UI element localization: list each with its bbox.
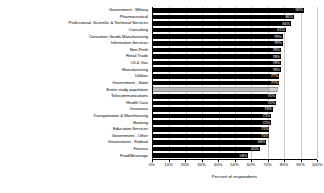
bar: 69% xyxy=(153,140,266,145)
x-axis: 0%10%20%30%40%50%60%70%80%90%100% xyxy=(152,160,317,170)
bar: 65% xyxy=(153,147,260,152)
bar-value-label: 81% xyxy=(277,28,285,32)
bar-row: 84% xyxy=(153,20,317,27)
bar-row: 78% xyxy=(153,66,317,73)
bar-rows: 92%86%84%81%79%79%78%78%78%78%77%77%76%7… xyxy=(153,7,317,159)
bar: 78% xyxy=(153,48,281,53)
plot-area: 92%86%84%81%79%79%78%78%78%78%77%77%76%7… xyxy=(152,7,317,160)
bar-value-label: 75% xyxy=(268,94,276,98)
x-axis-tick-label: 0% xyxy=(149,163,155,167)
bar-chart: Government - MilitaryPharmaceuticalProfe… xyxy=(0,0,324,193)
category-label: Government - Federal xyxy=(0,139,150,146)
bar: 77% xyxy=(153,74,279,79)
bar-value-label: 78% xyxy=(272,55,280,59)
bar-row: 72% xyxy=(153,113,317,120)
bar-value-label: 84% xyxy=(282,22,290,26)
bar-row: 81% xyxy=(153,27,317,34)
bar: 78% xyxy=(153,67,281,72)
category-label: Information Services xyxy=(0,40,150,47)
x-axis-tick-label: 100% xyxy=(312,163,323,167)
category-axis-labels: Government - MilitaryPharmaceuticalProfe… xyxy=(0,7,150,159)
bar: 81% xyxy=(153,28,286,33)
bar: 72% xyxy=(153,114,271,119)
bar: 86% xyxy=(153,15,294,20)
bar-row: 78% xyxy=(153,53,317,60)
bar-row: 79% xyxy=(153,33,317,40)
bar: 79% xyxy=(153,41,283,46)
bar: 71% xyxy=(153,127,269,132)
bar-value-label: 78% xyxy=(272,48,280,52)
bar-value-label: 75% xyxy=(268,101,276,105)
category-label: Non-Profit xyxy=(0,47,150,54)
bar-value-label: 73% xyxy=(264,107,272,111)
x-axis-tick-label: 30% xyxy=(197,163,205,167)
bar-row: 75% xyxy=(153,93,317,100)
bar-value-label: 71% xyxy=(261,127,269,131)
bar-value-label: 86% xyxy=(286,15,294,19)
bar-value-label: 79% xyxy=(274,41,282,45)
category-label: Telecommunications xyxy=(0,93,150,100)
category-label: Banking xyxy=(0,119,150,126)
category-label: Pharmaceutical xyxy=(0,14,150,21)
category-label: Utilities xyxy=(0,73,150,80)
bar: 75% xyxy=(153,94,276,99)
bar-highlighted: 76% xyxy=(153,87,278,92)
bar: 58% xyxy=(153,153,248,158)
bar: 79% xyxy=(153,34,283,39)
bar-value-label: 78% xyxy=(272,68,280,72)
bar: 72% xyxy=(153,120,271,125)
bar: 92% xyxy=(153,8,304,13)
x-axis-tick-label: 40% xyxy=(214,163,222,167)
bar-value-label: 71% xyxy=(261,134,269,138)
bar: 78% xyxy=(153,54,281,59)
x-axis-title: Percent of respondents xyxy=(152,175,317,179)
bar-row: 77% xyxy=(153,73,317,80)
x-axis-tick-label: 50% xyxy=(230,163,238,167)
category-label: Education Services xyxy=(0,126,150,133)
bar-row: 69% xyxy=(153,139,317,146)
bar-row: 79% xyxy=(153,40,317,47)
bar-value-label: 72% xyxy=(263,114,271,118)
bar-value-label: 76% xyxy=(269,88,277,92)
bar-row: 75% xyxy=(153,100,317,107)
bar: 84% xyxy=(153,21,291,26)
category-label: Consumer Goods Manufacturing xyxy=(0,33,150,40)
category-label: Transportation & Warehousing xyxy=(0,113,150,120)
bar: 77% xyxy=(153,81,279,86)
bar-row: 78% xyxy=(153,60,317,67)
bar: 71% xyxy=(153,134,269,139)
x-axis-tick-label: 80% xyxy=(280,163,288,167)
bar: 78% xyxy=(153,61,281,66)
category-label: Consulting xyxy=(0,27,150,34)
bar: 75% xyxy=(153,101,276,106)
category-label: Oil & Gas xyxy=(0,60,150,67)
x-axis-tick-label: 10% xyxy=(164,163,172,167)
category-label: Government - Military xyxy=(0,7,150,14)
x-axis-tick-label: 90% xyxy=(296,163,304,167)
bar-value-label: 79% xyxy=(274,35,282,39)
bar-row: 71% xyxy=(153,133,317,140)
bar-value-label: 78% xyxy=(272,61,280,65)
category-label: Government - Other xyxy=(0,133,150,140)
bar-row: 86% xyxy=(153,14,317,21)
category-label: Professional, Scientific & Technical Ser… xyxy=(0,20,150,27)
bar-row: 72% xyxy=(153,119,317,126)
bar-row: 78% xyxy=(153,47,317,54)
bar-row: 77% xyxy=(153,80,317,87)
bar: 73% xyxy=(153,107,273,112)
category-label: Food/Beverage xyxy=(0,152,150,159)
bar-row: 71% xyxy=(153,126,317,133)
bar-row: 58% xyxy=(153,152,317,159)
bar-value-label: 65% xyxy=(251,147,259,151)
bar-row: 73% xyxy=(153,106,317,113)
bar-value-label: 77% xyxy=(271,74,279,78)
bar-row: 76% xyxy=(153,86,317,93)
bar-value-label: 77% xyxy=(271,81,279,85)
x-axis-tick-label: 20% xyxy=(181,163,189,167)
x-axis-tick-label: 60% xyxy=(247,163,255,167)
category-label: Insurance xyxy=(0,106,150,113)
x-axis-tick-label: 70% xyxy=(263,163,271,167)
gridline xyxy=(317,7,318,159)
category-label: Finance xyxy=(0,146,150,153)
category-label: Entire study population xyxy=(0,86,150,93)
